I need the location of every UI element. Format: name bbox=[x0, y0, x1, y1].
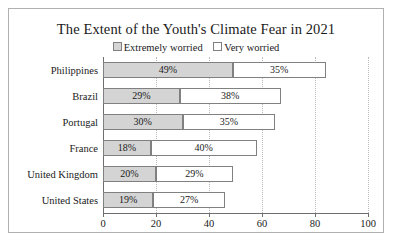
bar-row: United Kingdom20%29% bbox=[103, 166, 368, 182]
y-axis-label-france: France bbox=[69, 143, 98, 154]
bar-segment-portugal-very-worried: 35% bbox=[183, 114, 276, 130]
x-tick-20 bbox=[156, 213, 157, 217]
bar-segment-brazil-extremely-worried: 29% bbox=[103, 88, 180, 104]
bar-segment-brazil-very-worried: 38% bbox=[180, 88, 281, 104]
bar-row: Brazil29%38% bbox=[103, 88, 368, 104]
bar-segment-portugal-extremely-worried: 30% bbox=[103, 114, 183, 130]
x-axis-line bbox=[103, 213, 369, 214]
bar-segment-united-states-extremely-worried: 19% bbox=[103, 192, 153, 208]
x-tick-0 bbox=[103, 213, 104, 217]
x-tick-40 bbox=[209, 213, 210, 217]
bar-segment-france-extremely-worried: 18% bbox=[103, 140, 151, 156]
legend-label-extremely-worried: Extremely worried bbox=[124, 42, 203, 53]
y-axis-line bbox=[103, 57, 104, 213]
gridline-20 bbox=[156, 57, 157, 213]
x-tick-60 bbox=[262, 213, 263, 217]
bar-segment-philippines-very-worried: 35% bbox=[233, 62, 326, 78]
bar-row: Portugal30%35% bbox=[103, 114, 368, 130]
x-tick-label-20: 20 bbox=[151, 218, 162, 229]
x-tick-label-40: 40 bbox=[204, 218, 215, 229]
y-axis-label-united-kingdom: United Kingdom bbox=[27, 169, 98, 180]
legend-item-extremely-worried: Extremely worried bbox=[113, 41, 203, 53]
legend-swatch-very-worried bbox=[213, 42, 222, 51]
bar-row: Philippines49%35% bbox=[103, 62, 368, 78]
y-axis-label-united-states: United States bbox=[42, 195, 98, 206]
x-tick-label-0: 0 bbox=[100, 218, 105, 229]
bar-segment-united-kingdom-very-worried: 29% bbox=[156, 166, 233, 182]
x-tick-label-80: 80 bbox=[310, 218, 321, 229]
bar-segment-united-states-very-worried: 27% bbox=[153, 192, 225, 208]
bar-segment-philippines-extremely-worried: 49% bbox=[103, 62, 233, 78]
chart-frame: The Extent of the Youth's Climate Fear i… bbox=[8, 8, 384, 233]
x-tick-label-100: 100 bbox=[360, 218, 376, 229]
chart-legend: Extremely worried Very worried bbox=[9, 41, 383, 53]
y-axis-label-brazil: Brazil bbox=[72, 91, 98, 102]
bar-segment-france-very-worried: 40% bbox=[151, 140, 257, 156]
plot-area: 020406080100 Philippines49%35%Brazil29%3… bbox=[103, 57, 368, 213]
gridline-80 bbox=[315, 57, 316, 213]
gridline-100 bbox=[368, 57, 369, 213]
bar-row: France18%40% bbox=[103, 140, 368, 156]
x-tick-100 bbox=[368, 213, 369, 217]
chart-title: The Extent of the Youth's Climate Fear i… bbox=[9, 21, 383, 38]
gridline-40 bbox=[209, 57, 210, 213]
y-axis-label-philippines: Philippines bbox=[51, 65, 98, 76]
bar-row: United States19%27% bbox=[103, 192, 368, 208]
x-tick-80 bbox=[315, 213, 316, 217]
gridline-60 bbox=[262, 57, 263, 213]
x-tick-label-60: 60 bbox=[257, 218, 268, 229]
legend-item-very-worried: Very worried bbox=[213, 41, 279, 53]
bar-segment-united-kingdom-extremely-worried: 20% bbox=[103, 166, 156, 182]
legend-label-very-worried: Very worried bbox=[224, 42, 279, 53]
y-axis-label-portugal: Portugal bbox=[62, 117, 98, 128]
legend-swatch-extremely-worried bbox=[113, 42, 122, 51]
